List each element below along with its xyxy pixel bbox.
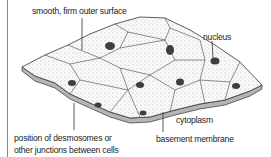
label-basement-membrane: basement membrane xyxy=(156,133,234,144)
label-outer-surface: smooth, firm outer surface xyxy=(32,5,127,16)
label-cytoplasm: cytoplasm xyxy=(176,114,213,125)
label-junctions-line1: position of desmosomes or xyxy=(14,132,112,143)
label-junctions-line2: other junctions between cells xyxy=(14,144,119,155)
label-nucleus: nucleus xyxy=(203,31,231,42)
epithelium-diagram: smooth, firm outer surface nucleus cytop… xyxy=(0,0,271,157)
